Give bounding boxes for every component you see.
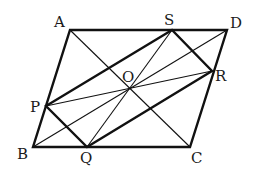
diagonal-qs [87, 30, 172, 147]
label-r: R [215, 67, 227, 85]
label-c: C [191, 149, 202, 167]
label-o: O [122, 68, 134, 86]
geometry-diagram: A S D O R P B Q C [0, 0, 260, 174]
label-q: Q [80, 149, 92, 167]
label-a: A [53, 13, 65, 31]
label-b: B [17, 145, 28, 163]
label-p: P [30, 98, 40, 116]
label-d: D [230, 14, 242, 32]
label-s: S [164, 11, 174, 29]
